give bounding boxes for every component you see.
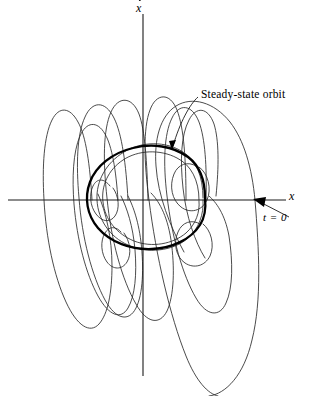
axes-group (8, 14, 286, 376)
y-axis-label: x (136, 2, 141, 14)
trajectory-loop-centre-top (104, 100, 173, 320)
trajectory-loop-right-small-lower (176, 222, 213, 266)
steady-state-orbit-label: Steady-state orbit (201, 89, 285, 101)
initial-time-label: t = 0 (263, 212, 287, 223)
trajectory-loop-centre-left-tall (77, 105, 142, 317)
steady-state-leader-line (173, 97, 198, 146)
transient-trajectory-group (43, 97, 258, 396)
x-axis-label: x (289, 190, 294, 202)
trajectory-loop-upper-right (181, 110, 218, 258)
y-axis-label-text: x (136, 2, 141, 14)
trajectory-loop-right-tall (165, 108, 232, 313)
trajectory-loop-outer-1 (209, 200, 259, 396)
trajectory-loop-left-small-lower (102, 228, 130, 268)
trajectory-loop-outer-1b (156, 101, 255, 252)
phase-plane-canvas (0, 0, 309, 396)
phase-plane-figure: x x t = 0 Steady-state orbit (0, 0, 309, 396)
